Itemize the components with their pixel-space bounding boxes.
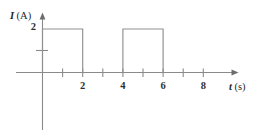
x-axis-title: t(s)	[229, 81, 246, 93]
x-axis-title-unit: (s)	[234, 81, 246, 93]
x-axis-title-variable: t	[229, 81, 233, 92]
plot-canvas: 2 2 4 6 8 I(A) t(s)	[0, 0, 265, 134]
axis-title-group: I(A) t(s)	[9, 10, 246, 93]
x-tick-label-2: 2	[80, 80, 85, 91]
y-axis-title-unit: (A)	[17, 10, 32, 22]
pulse-1-trace	[43, 29, 83, 73]
y-tick-label-2: 2	[31, 21, 36, 32]
pulse-2-trace	[123, 29, 163, 73]
x-tick-label-4: 4	[120, 80, 126, 91]
y-axis-title: I(A)	[9, 10, 32, 22]
y-axis-arrow-icon	[40, 13, 46, 20]
tick-label-group: 2 2 4 6 8	[31, 21, 206, 92]
x-tick-label-8: 8	[201, 80, 206, 91]
axes-group	[16, 13, 239, 131]
current-vs-time-figure: 2 2 4 6 8 I(A) t(s)	[0, 0, 265, 134]
y-axis-title-variable: I	[9, 10, 15, 21]
x-axis-arrow-icon	[232, 70, 239, 76]
x-tick-label-6: 6	[160, 80, 165, 91]
current-waveform	[43, 29, 164, 73]
